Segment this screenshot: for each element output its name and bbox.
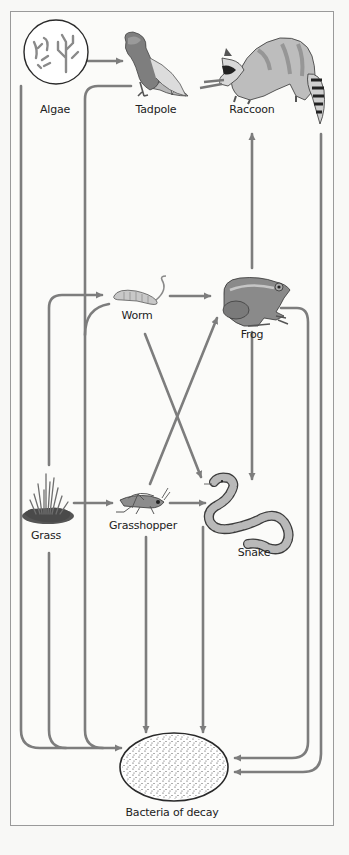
arrow-frog-to-bacteria <box>235 308 308 758</box>
label-snake: Snake <box>238 546 270 559</box>
bacteria-icon <box>120 733 228 801</box>
food-web-arrows <box>21 61 321 772</box>
arrow-algae-to-bacteria <box>21 86 121 748</box>
raccoon-tail <box>308 74 325 124</box>
tadpole-icon <box>125 32 188 96</box>
arrow-grasshopper-to-frog <box>150 318 217 484</box>
frog-icon <box>223 278 290 327</box>
label-raccoon: Raccoon <box>229 103 274 116</box>
algae-icon <box>24 20 88 84</box>
arrow-grass-to-worm <box>49 295 102 465</box>
snake-icon <box>204 478 289 550</box>
label-algae: Algae <box>40 103 70 116</box>
label-worm: Worm <box>121 309 152 322</box>
label-grasshopper: Grasshopper <box>109 519 177 532</box>
label-bacteria: Bacteria of decay <box>126 806 219 819</box>
arrow-worm-to-bacteria <box>85 304 109 335</box>
label-tadpole: Tadpole <box>136 103 177 116</box>
grasshopper-icon <box>116 488 170 514</box>
grass-icon <box>22 474 74 524</box>
label-frog: Frog <box>241 328 264 341</box>
arrow-worm-to-snake <box>145 334 201 477</box>
arrow-grass-to-bacteria <box>49 553 66 748</box>
arrow-tadpole-to-bacteria <box>85 86 131 748</box>
worm-icon <box>114 276 166 305</box>
label-grass: Grass <box>31 529 61 542</box>
food-web-diagram <box>0 0 349 855</box>
